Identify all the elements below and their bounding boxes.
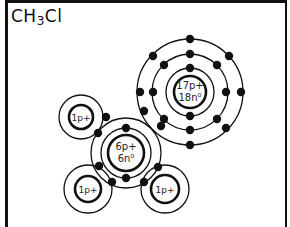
electron xyxy=(222,88,230,96)
electron xyxy=(213,115,221,123)
electron xyxy=(186,126,194,134)
electron xyxy=(157,122,165,130)
electron xyxy=(136,88,144,96)
electron xyxy=(186,141,194,149)
electron xyxy=(213,61,221,69)
electron xyxy=(95,162,103,170)
electron xyxy=(122,124,130,132)
bohr-model-diagram: 17p+ 18n⁰ 6p+ 6n⁰ 1p+ 1p+ 1p+ xyxy=(0,0,290,227)
hydrogen-bl-protons-label: 1p+ xyxy=(79,185,98,195)
carbon-protons-label: 6p+ xyxy=(115,141,136,152)
electron xyxy=(122,174,130,182)
electron xyxy=(102,113,110,121)
electron xyxy=(154,163,162,171)
chlorine-protons-label: 17p+ xyxy=(176,80,203,91)
electron xyxy=(149,88,157,96)
electron xyxy=(186,35,194,43)
electron xyxy=(186,50,194,58)
electron xyxy=(94,129,102,137)
electron xyxy=(140,178,148,186)
electron xyxy=(140,107,148,115)
hydrogen-br-protons-label: 1p+ xyxy=(156,185,175,195)
electron xyxy=(225,52,233,60)
electron xyxy=(149,52,157,60)
electron xyxy=(186,112,194,120)
electron xyxy=(160,61,168,69)
hydrogen-tl-protons-label: 1p+ xyxy=(72,113,91,123)
chlorine-neutrons-label: 18n⁰ xyxy=(178,92,201,103)
carbon-neutrons-label: 6n⁰ xyxy=(118,153,135,164)
electron xyxy=(108,178,116,186)
electron xyxy=(222,124,230,132)
electron xyxy=(186,64,194,72)
electron xyxy=(237,88,245,96)
